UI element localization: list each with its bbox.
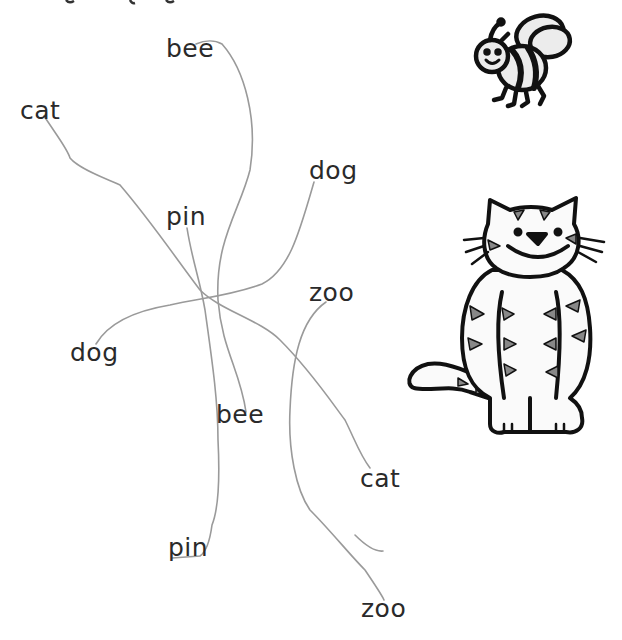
word-left-dog: dog <box>70 340 119 365</box>
line-zoo <box>290 302 384 600</box>
word-right-pin: pin <box>168 535 208 560</box>
word-right-bee: bee <box>216 402 264 427</box>
line-pin <box>172 228 219 558</box>
word-left-bee: bee <box>166 36 214 61</box>
word-left-pin: pin <box>166 204 206 229</box>
word-right-zoo: zoo <box>309 280 354 305</box>
word-right-cat: cat <box>360 466 400 491</box>
word-left-cat: cat <box>20 98 60 123</box>
word-right-zoo-2: zoo <box>361 596 406 621</box>
bee-illustration <box>462 6 577 110</box>
cat-illustration <box>400 188 610 438</box>
word-right-dog: dog <box>309 158 358 183</box>
line-zoo-stray <box>355 535 383 551</box>
